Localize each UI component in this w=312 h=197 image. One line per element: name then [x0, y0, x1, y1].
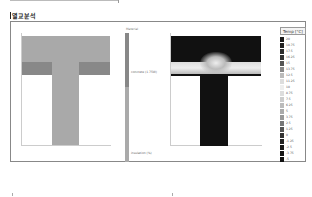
bottom-tick — [12, 193, 13, 196]
legend-label: 17.5 — [286, 49, 293, 53]
legend-label: 20 — [286, 37, 290, 41]
top-divider — [10, 0, 118, 1]
legend-swatch — [280, 109, 284, 114]
legend-label: 16.25 — [286, 55, 295, 59]
legend-label: -2.5 — [286, 145, 292, 149]
legend-label: -5 — [286, 157, 289, 161]
legend-label: 2.5 — [286, 121, 291, 125]
legend-label: 10 — [286, 85, 290, 89]
legend-label: -1.25 — [286, 139, 294, 143]
legend-swatch — [280, 79, 284, 84]
legend-swatch — [280, 43, 284, 48]
legend-swatch — [280, 97, 284, 102]
legend-swatch — [280, 67, 284, 72]
legend-swatch — [280, 121, 284, 126]
legend-swatch — [280, 133, 284, 138]
legend-swatch — [280, 127, 284, 132]
top-divider-end — [118, 0, 119, 3]
legend-label: 13.75 — [286, 67, 295, 71]
legend-swatch — [280, 49, 284, 54]
material-legend-title: Material — [126, 27, 138, 31]
legend-swatch — [280, 55, 284, 60]
temperature-legend: 20 18.75 17.5 16.25 15 13.75 12.5 11.25 … — [280, 36, 295, 162]
wall-region — [52, 62, 79, 145]
legend-swatch — [280, 145, 284, 150]
material-bar-insulation — [125, 87, 129, 162]
temperature-legend-title: Temp [°C] — [280, 27, 306, 35]
legend-label: 0 — [286, 133, 288, 137]
left-x-axis — [21, 145, 111, 146]
legend-label: 15 — [286, 61, 290, 65]
legend-row: -5 — [280, 156, 295, 162]
legend-swatch — [280, 61, 284, 66]
section-title: 열교분석 — [10, 12, 36, 19]
legend-swatch — [280, 115, 284, 120]
legend-swatch — [280, 85, 284, 90]
legend-swatch — [280, 139, 284, 144]
legend-label: 12.5 — [286, 73, 293, 77]
temperature-wall — [200, 74, 228, 146]
legend-swatch — [280, 37, 284, 42]
legend-swatch — [280, 157, 284, 162]
legend-label: -3.75 — [286, 151, 294, 155]
legend-swatch — [280, 103, 284, 108]
thermal-bridge-hotspot — [200, 52, 232, 74]
legend-swatch — [280, 91, 284, 96]
legend-label: 3.75 — [286, 115, 293, 119]
legend-label: 1.25 — [286, 127, 293, 131]
legend-label: 7.5 — [286, 97, 291, 101]
material-bar-concrete — [125, 33, 129, 87]
legend-label: 18.75 — [286, 43, 295, 47]
legend-label: 6.25 — [286, 103, 293, 107]
legend-label: 5 — [286, 109, 288, 113]
legend-swatch — [280, 73, 284, 78]
legend-label: 11.25 — [286, 79, 295, 83]
slab-region — [22, 36, 110, 62]
bottom-tick — [172, 193, 173, 196]
legend-swatch — [280, 151, 284, 156]
material-label-insulation: insulation (%) — [131, 151, 152, 155]
material-label-concrete: concrete (1.75W) — [131, 70, 157, 74]
legend-label: 8.75 — [286, 91, 293, 95]
